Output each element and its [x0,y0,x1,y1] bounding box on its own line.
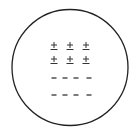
plus-minus-symbol: ± [67,56,74,64]
charge-diagram: ±±±±±±-------- [0,0,129,130]
plus-minus-symbol: ± [51,42,58,50]
plus-minus-symbol: ± [83,42,90,50]
charge-symbols: ±±±±±±-------- [51,42,92,95]
plus-minus-symbol: ± [83,56,90,64]
plus-minus-symbol: ± [67,42,74,50]
outer-circle [12,10,128,126]
plus-minus-symbol: ± [51,56,58,64]
